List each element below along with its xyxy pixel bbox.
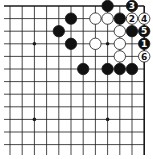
white-stone [114,51,125,62]
black-stone-move-5: 5 [139,26,150,37]
black-stone [65,13,76,24]
white-stone-move-2: 2 [126,13,137,24]
white-stone [90,38,101,49]
black-stone [53,26,64,37]
black-stone [65,38,76,49]
star-point [33,42,37,46]
move-number: 2 [129,14,135,24]
move-number: 4 [141,14,147,24]
white-stone [114,38,125,49]
star-point [106,118,110,122]
black-stone [102,63,113,74]
black-stone [126,63,137,74]
black-stone [78,63,89,74]
black-stone [102,0,113,11]
black-stone-move-1: 1 [139,38,150,49]
white-stone-move-6: 6 [139,51,150,62]
star-point [106,42,110,46]
move-number: 3 [129,1,135,11]
white-stone [114,26,125,37]
move-number: 1 [141,39,147,49]
white-stone-move-4: 4 [139,13,150,24]
stones-layer: 324516 [53,0,150,74]
black-stone-move-3: 3 [126,0,137,11]
go-board: 324516 [0,0,153,159]
white-stone [90,13,101,24]
black-stone [114,63,125,74]
black-stone [126,26,137,37]
white-stone [102,13,113,24]
move-number: 6 [141,52,147,62]
star-point [33,118,37,122]
move-number: 5 [141,26,147,36]
black-stone [114,13,125,24]
